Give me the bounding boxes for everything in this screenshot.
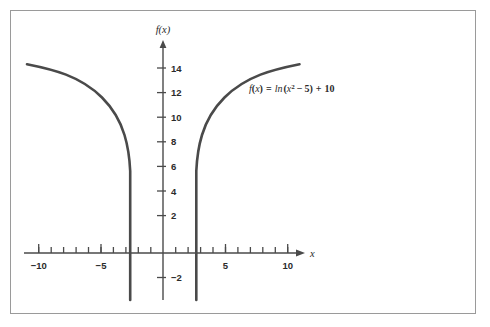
equation-ln: ln <box>275 83 283 94</box>
y-tick-label-6: 6 <box>171 161 176 172</box>
equation-exponent: 2 <box>291 83 295 91</box>
y-axis <box>160 40 167 300</box>
x-axis-label: x <box>309 248 315 259</box>
y-tick-label-10: 10 <box>171 112 182 123</box>
y-tick-label-4: 4 <box>171 186 177 197</box>
x-tick-label-neg5: −5 <box>96 260 108 271</box>
equation-paren4: ) <box>309 83 312 95</box>
y-axis-arrow <box>160 40 167 48</box>
y-axis-label: f(x) <box>156 24 171 36</box>
equation-paren2: ) <box>260 83 263 95</box>
equation-equals: = <box>266 83 272 94</box>
y-tick-label-8: 8 <box>171 136 176 147</box>
equation-plus: + <box>316 83 322 94</box>
y-tick-label-neg2: −2 <box>171 272 182 283</box>
y-axis-ticks <box>157 68 166 278</box>
x-axis-arrow <box>296 250 305 257</box>
equation-minus: − <box>297 83 303 94</box>
x-tick-label-10: 10 <box>282 260 293 271</box>
x-tick-label-neg10: −10 <box>31 260 47 271</box>
equation-ten: 10 <box>324 83 334 94</box>
equation-annotation: f(x)=ln(x2−5)+10 <box>249 83 334 96</box>
y-tick-label-12: 12 <box>171 87 182 98</box>
y-tick-label-14: 14 <box>171 63 182 74</box>
y-tick-label-2: 2 <box>171 210 176 221</box>
plot-area: −10 −5 5 10 14 12 10 8 6 4 2 −2 x f(x) f… <box>0 0 490 327</box>
x-tick-label-5: 5 <box>223 260 229 271</box>
figure-root: −10 −5 5 10 14 12 10 8 6 4 2 −2 x f(x) f… <box>0 0 490 327</box>
